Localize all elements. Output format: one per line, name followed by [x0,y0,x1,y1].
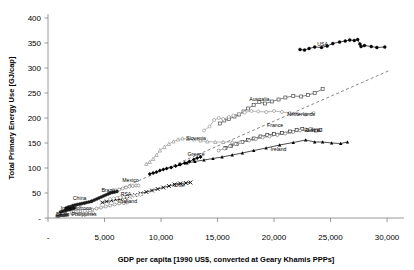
data-point [284,132,287,135]
series-label-austria: Austria [304,127,320,133]
data-point [250,110,253,113]
energy-gdp-scatter-chart: -50100150200250300350400-5,00010,00015,0… [0,0,414,270]
data-point [137,184,140,187]
data-point [344,40,347,43]
data-point [104,205,107,208]
data-point [169,166,173,170]
data-point [331,42,334,45]
series-label-greece: Greece [188,151,205,157]
series-label-china: China [73,195,87,201]
series-label-slovenia: Slovenia [186,135,206,141]
data-point [270,100,273,103]
data-point [338,41,341,44]
data-point [231,140,234,143]
y-tick-label: 300 [28,64,42,73]
data-point [383,46,386,49]
data-point [261,136,264,139]
data-point [128,185,131,188]
data-point [308,47,311,50]
x-tick-label: 25,000 [318,233,343,242]
data-point [284,96,287,99]
data-point [89,200,92,203]
data-point [300,95,303,98]
data-point [202,129,205,132]
y-tick-label: 250 [28,89,42,98]
data-point [247,107,250,110]
data-point [234,143,237,146]
data-point [113,203,116,206]
data-point [232,114,235,117]
data-point [195,156,199,160]
series-label-rsa: RSA [121,191,132,197]
data-point [273,110,276,113]
x-tick-label: 5,000 [94,233,115,242]
data-point [124,186,127,189]
series-label-usa: USA [317,41,328,47]
data-point [109,204,112,207]
data-point [163,145,166,148]
data-point [248,139,251,142]
data-point [280,111,283,114]
data-point [348,39,351,42]
y-tick-label: 350 [28,39,42,48]
series-label-benin: Benin [56,211,69,217]
data-point [151,171,155,175]
data-point [254,138,257,141]
data-point [167,142,170,145]
y-tick-label: 150 [28,139,42,148]
data-point [217,117,220,120]
data-point [370,45,373,48]
series-label-philippines: Philippines [72,211,97,217]
data-point [303,49,306,52]
series-label-thailand: Thailand [117,198,137,204]
data-point [218,122,221,125]
data-point [252,104,255,107]
x-axis-title: GDP per capita [1990 US$, converted at G… [118,255,335,264]
y-tick-label: 400 [28,14,42,23]
data-point [299,48,302,51]
data-point [360,45,363,48]
data-point [237,113,240,116]
series-label-france: France [267,122,283,128]
x-tick-label: 20,000 [262,233,287,242]
data-point [161,168,165,172]
data-point [292,95,295,98]
series-label-brazil: Brazil [101,187,114,193]
data-point [165,167,169,171]
data-point [222,118,225,121]
data-point [356,38,359,41]
x-tick-label: - [47,233,50,242]
y-tick-label: - [38,214,41,223]
data-point [227,116,230,119]
series-label-mexico: Mexico [122,177,139,183]
data-point [208,125,211,128]
data-point [306,94,309,97]
data-point [273,133,276,136]
series-line-usa [300,40,385,51]
series-label-australia: Australia [249,96,269,102]
data-point [363,44,366,47]
chart-canvas: -50100150200250300350400-5,00010,00015,0… [0,0,414,270]
data-point [299,129,302,132]
data-point [257,110,260,113]
data-point [276,134,279,137]
data-point [172,140,175,143]
data-point [221,140,224,143]
data-point [353,39,356,42]
data-point [313,92,316,95]
data-point [223,147,226,150]
data-point [213,119,216,122]
data-point [100,206,103,209]
y-axis-title: Total Primary Energy Use [GJ/cap] [7,56,16,179]
data-point [217,149,220,152]
data-point [228,145,231,148]
series-label-ireland: Ireland [271,146,287,152]
data-point [206,140,209,143]
data-point [243,111,246,114]
data-point [321,88,324,91]
data-point [265,111,268,114]
y-tick-label: 200 [28,114,42,123]
data-point [277,98,280,101]
data-point [263,102,266,105]
data-point [346,140,349,143]
